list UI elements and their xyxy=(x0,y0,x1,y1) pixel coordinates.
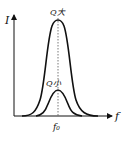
y-axis-label: I xyxy=(4,14,10,27)
high-q-curve xyxy=(22,20,98,116)
x-axis-label: f xyxy=(114,110,121,123)
center-frequency-label: f₀ xyxy=(52,122,60,132)
resonance-diagram: I f f₀ Q大 Q小 xyxy=(0,0,125,143)
low-q-label: Q小 xyxy=(46,79,62,88)
high-q-label: Q大 xyxy=(50,8,66,17)
